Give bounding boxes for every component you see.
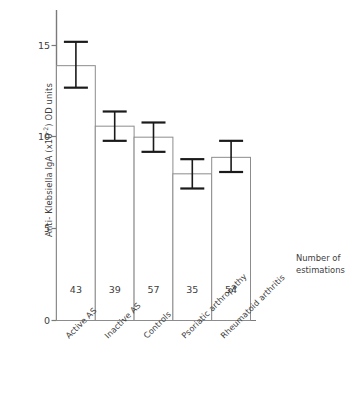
bar-3 bbox=[173, 174, 212, 321]
plot-area bbox=[0, 0, 360, 418]
bar-count-label-0: 43 bbox=[70, 284, 82, 295]
bar-0 bbox=[57, 66, 96, 321]
bar-count-label-3: 35 bbox=[186, 284, 198, 295]
bar-count-label-2: 57 bbox=[147, 284, 159, 295]
number-of-estimations-annotation: Number of estimations bbox=[296, 252, 360, 276]
chart-container: Anti- Klebsiella IgA (x10-2) OD units 15… bbox=[0, 0, 360, 418]
bar-count-label-1: 39 bbox=[109, 284, 121, 295]
annotation-line-2: estimations bbox=[296, 264, 360, 276]
annotation-line-1: Number of bbox=[296, 252, 360, 264]
bars-layer bbox=[57, 66, 251, 321]
y-axis-ticks bbox=[52, 46, 57, 321]
